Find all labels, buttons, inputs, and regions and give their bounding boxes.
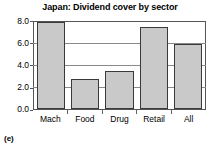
chart-figure: Japan: Dividend cover by sector 8.0 6.0 … [0, 0, 220, 155]
panel-letter: (e) [4, 134, 14, 144]
x-axis-label-food: Food [68, 114, 103, 125]
y-axis-tick-label-4: 4.0 [1, 61, 29, 70]
plot-area [33, 21, 206, 110]
bar-mach[interactable] [37, 22, 65, 109]
bar-series [34, 22, 205, 109]
chart-title: Japan: Dividend cover by sector [0, 2, 220, 13]
x-axis-labels: Mach Food Drug Retail All [33, 114, 206, 125]
bar-retail[interactable] [140, 27, 168, 109]
y-axis-tick-label-2: 2.0 [1, 83, 29, 92]
bar-slot-food [68, 22, 102, 109]
bar-food[interactable] [71, 79, 99, 109]
y-axis-tick-label-8: 8.0 [1, 17, 29, 26]
bar-slot-drug [102, 22, 136, 109]
bar-all[interactable] [174, 44, 202, 109]
y-axis-tick-label-0: 0.0 [1, 105, 29, 114]
y-axis-tick-mark-0 [30, 110, 33, 111]
bar-drug[interactable] [105, 71, 133, 109]
bar-slot-retail [137, 22, 171, 109]
bar-slot-all [171, 22, 205, 109]
x-axis-label-retail: Retail [137, 114, 172, 125]
y-axis-tick-label-6: 6.0 [1, 39, 29, 48]
x-axis-label-drug: Drug [102, 114, 137, 125]
bar-slot-mach [34, 22, 68, 109]
x-axis-label-mach: Mach [33, 114, 68, 125]
x-axis-label-all: All [171, 114, 206, 125]
